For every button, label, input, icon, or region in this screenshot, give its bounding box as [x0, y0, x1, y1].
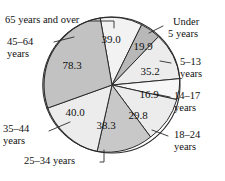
pie-chart-svg: 39.0 19.9 35.2 16.9 29.8 38.3 40.0 78.3 … — [0, 0, 225, 181]
label-18-24-years-line1: 18–24 — [174, 129, 201, 140]
label-5-13-years-line2: years — [180, 68, 202, 79]
label-under-5-years-line2: 5 years — [168, 28, 198, 39]
label-25-34-years: 25–34 years — [24, 155, 75, 166]
pie-chart-figure: 39.0 19.9 35.2 16.9 29.8 38.3 40.0 78.3 … — [0, 0, 225, 181]
value-25-34-years: 38.3 — [96, 119, 116, 131]
label-45-64-years-line2: years — [7, 48, 29, 59]
value-45-64-years: 78.3 — [62, 59, 82, 71]
value-under-5-years: 19.9 — [133, 40, 153, 52]
value-35-44-years: 40.0 — [65, 106, 85, 118]
value-14-17-years: 16.9 — [139, 88, 159, 100]
label-65-years-and-over: 65 years and over — [5, 14, 80, 25]
value-18-24-years: 29.8 — [128, 109, 148, 121]
label-5-13-years-line1: 5–13 — [180, 56, 201, 67]
label-35-44-years-line2: years — [3, 135, 25, 146]
label-14-17-years-line1: 14–17 — [174, 90, 200, 101]
label-under-5-years-line1: Under — [173, 16, 200, 27]
label-45-64-years-line1: 45–64 — [7, 36, 34, 47]
label-18-24-years-line2: years — [174, 141, 196, 152]
value-5-13-years: 35.2 — [140, 65, 159, 77]
label-14-17-years-line2: years — [174, 102, 196, 113]
value-65-years-and-over: 39.0 — [101, 33, 121, 45]
label-35-44-years-line1: 35–44 — [3, 123, 30, 134]
